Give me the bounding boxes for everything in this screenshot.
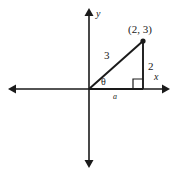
x-axis-label: x <box>153 71 159 82</box>
right-angle-marker-icon <box>133 79 143 89</box>
y-axis-top-arrow-icon <box>85 8 94 16</box>
angle-theta-label: θ <box>101 76 106 87</box>
hypotenuse-length-label: 3 <box>104 49 110 61</box>
triangle-diagram-svg: y x (2, 3) 3 2 a θ <box>0 0 173 174</box>
coordinate-plane-figure: y x (2, 3) 3 2 a θ <box>0 0 173 174</box>
y-axis-bottom-arrow-icon <box>85 160 94 168</box>
horizontal-leg-length-label: a <box>113 92 117 101</box>
point-coordinate-label: (2, 3) <box>128 23 152 36</box>
triangle-hypotenuse <box>89 41 143 89</box>
x-axis-left-arrow-icon <box>8 85 16 94</box>
vertical-leg-length-label: 2 <box>148 60 154 72</box>
triangle-group <box>89 38 146 89</box>
x-axis-right-arrow-icon <box>162 85 170 94</box>
y-axis-label: y <box>95 8 101 19</box>
vertex-point-dot <box>140 38 145 43</box>
